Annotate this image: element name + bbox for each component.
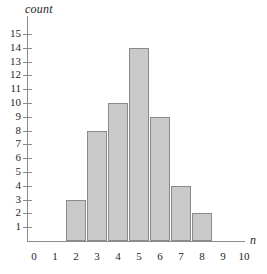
y-tick-label: 10 bbox=[0, 96, 21, 108]
histogram-figure: count n 123456789101112131415 0123456789… bbox=[0, 0, 267, 274]
y-tick-mark bbox=[23, 213, 32, 214]
y-tick-label: 1 bbox=[0, 220, 21, 232]
y-tick-mark bbox=[23, 131, 32, 132]
y-tick-mark bbox=[23, 158, 32, 159]
y-tick-label: 9 bbox=[0, 110, 21, 122]
y-tick-mark bbox=[23, 75, 32, 76]
histogram-bar bbox=[108, 103, 128, 241]
y-tick-mark bbox=[23, 200, 32, 201]
y-tick-label: 3 bbox=[0, 193, 21, 205]
histogram-bar bbox=[192, 213, 212, 241]
y-tick-label: 15 bbox=[0, 27, 21, 39]
x-axis-title: n bbox=[250, 233, 256, 248]
y-tick-mark bbox=[23, 117, 32, 118]
y-tick-mark bbox=[23, 48, 32, 49]
histogram-bar bbox=[150, 117, 170, 241]
y-tick-mark bbox=[23, 186, 32, 187]
y-axis-line bbox=[27, 16, 28, 242]
y-tick-mark bbox=[23, 34, 32, 35]
y-axis-title: count bbox=[25, 2, 53, 17]
y-tick-label: 12 bbox=[0, 68, 21, 80]
y-tick-mark bbox=[23, 144, 32, 145]
y-tick-label: 6 bbox=[0, 151, 21, 163]
y-tick-label: 5 bbox=[0, 165, 21, 177]
y-tick-label: 8 bbox=[0, 124, 21, 136]
histogram-bar bbox=[129, 48, 149, 241]
x-axis-line bbox=[27, 241, 245, 242]
y-tick-label: 4 bbox=[0, 179, 21, 191]
y-tick-label: 7 bbox=[0, 137, 21, 149]
histogram-bar bbox=[171, 186, 191, 241]
y-tick-mark bbox=[23, 89, 32, 90]
y-tick-label: 13 bbox=[0, 55, 21, 67]
histogram-bar bbox=[87, 131, 107, 241]
y-tick-mark bbox=[23, 103, 32, 104]
y-tick-label: 2 bbox=[0, 206, 21, 218]
y-tick-mark bbox=[23, 62, 32, 63]
histogram-bar bbox=[66, 200, 86, 241]
y-tick-mark bbox=[23, 172, 32, 173]
y-tick-label: 14 bbox=[0, 41, 21, 53]
y-tick-mark bbox=[23, 227, 32, 228]
x-tick-label: 10 bbox=[232, 250, 256, 262]
y-tick-label: 11 bbox=[0, 82, 21, 94]
